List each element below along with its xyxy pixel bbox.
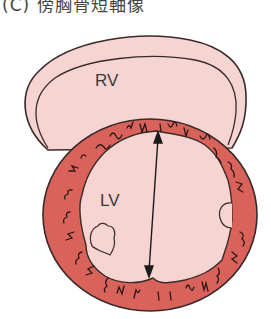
lv-label: LV	[100, 191, 120, 210]
heart-short-axis-diagram: RV	[0, 0, 271, 319]
rv-label: RV	[95, 71, 119, 90]
